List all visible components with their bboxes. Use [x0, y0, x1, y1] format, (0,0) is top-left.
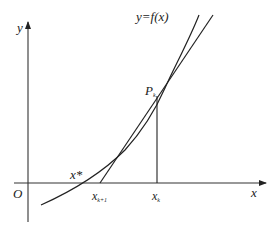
- point-pk-label: Pk: [145, 84, 156, 98]
- x-axis-label: x: [251, 186, 257, 199]
- newton-method-diagram: y x O y=f(x) Pk x* xk+1 xk: [0, 0, 272, 232]
- origin-label: O: [13, 187, 22, 200]
- diagram-graphics: [0, 0, 272, 232]
- y-axis-label: y: [17, 21, 23, 34]
- curve-f: [41, 15, 199, 205]
- x-k-label: xk: [152, 190, 160, 203]
- x-next-label: xk+1: [92, 190, 107, 203]
- curve-label: y=f(x): [136, 10, 169, 23]
- root-label: x*: [70, 168, 82, 181]
